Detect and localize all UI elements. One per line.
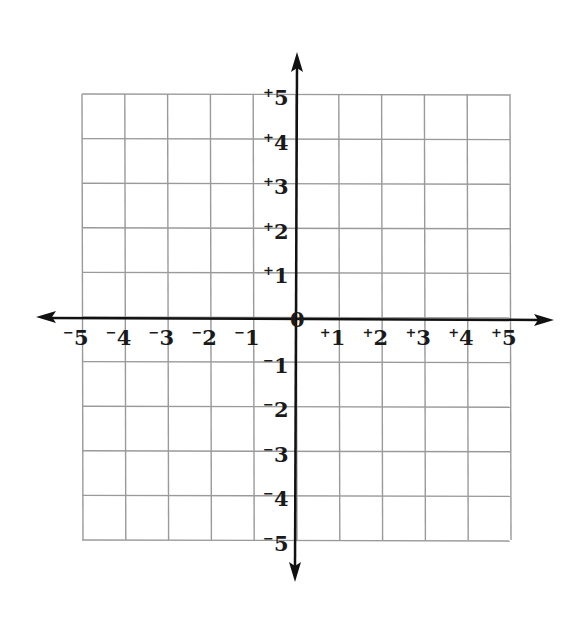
coordinate-plane: 0 −5−4−3−2−1+1+2+3+4+5+5+4+3+2+1−1−2−3−4… — [0, 0, 587, 623]
x-tick-label: +1 — [320, 325, 346, 350]
x-tick-label: +4 — [448, 325, 474, 350]
y-tick-label: +4 — [263, 130, 289, 155]
y-tick-label: +1 — [263, 263, 289, 288]
y-tick-label: −1 — [263, 353, 289, 378]
y-tick-label: +3 — [263, 174, 289, 199]
y-tick-label: −5 — [263, 531, 289, 556]
x-tick-label: −1 — [234, 325, 260, 350]
grid-line-vertical — [382, 94, 383, 540]
y-tick-label: +5 — [263, 85, 289, 110]
grid-line-vertical — [424, 94, 425, 540]
y-tick-label: −2 — [263, 397, 289, 422]
origin-label: 0 — [290, 307, 305, 332]
y-tick-label: +2 — [263, 219, 289, 244]
grid-line-vertical — [510, 94, 511, 540]
grid-line-vertical — [339, 94, 340, 540]
x-tick-label: −3 — [149, 325, 175, 350]
x-tick-label: +2 — [363, 325, 389, 350]
y-tick-label: −3 — [263, 442, 289, 467]
x-tick-label: +5 — [491, 325, 517, 350]
y-tick-label: −4 — [263, 486, 289, 511]
x-tick-label: −4 — [106, 325, 132, 350]
x-tick-label: +3 — [405, 325, 431, 350]
grid-line-vertical — [467, 94, 468, 540]
x-tick-label: −5 — [63, 325, 89, 350]
x-tick-label: −2 — [191, 325, 217, 350]
